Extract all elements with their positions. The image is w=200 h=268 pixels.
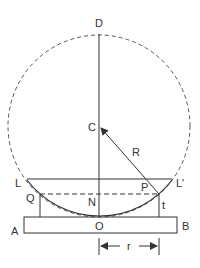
label-t: t — [162, 199, 165, 211]
newtons-rings-diagram: D C R L L′ P Q N t A O B r — [0, 0, 200, 268]
label-l: L — [15, 177, 21, 189]
label-r-radius: R — [132, 146, 140, 158]
label-c: C — [88, 121, 96, 133]
label-l-prime: L′ — [176, 177, 184, 189]
label-b: B — [182, 220, 189, 232]
radius-arrow — [101, 128, 159, 194]
label-d: D — [95, 17, 103, 29]
label-r-distance: r — [127, 240, 131, 252]
label-n: N — [88, 196, 96, 208]
label-q: Q — [26, 192, 35, 204]
label-o: O — [95, 220, 104, 232]
label-a: A — [11, 225, 19, 237]
label-p: P — [141, 181, 148, 193]
